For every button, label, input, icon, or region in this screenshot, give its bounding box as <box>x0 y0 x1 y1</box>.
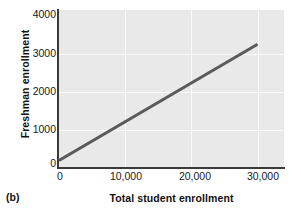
panel-label: (b) <box>6 191 19 203</box>
x-tick-label-10000: 10,000 <box>110 171 142 182</box>
y-tick-label-1000: 1000 <box>33 124 56 134</box>
plot-area <box>59 10 284 168</box>
y-tick-label-3000: 3000 <box>33 48 56 58</box>
x-tick-label-20000: 20,000 <box>179 171 211 182</box>
x-tick-label-30000: 30,000 <box>247 171 279 182</box>
x-axis-title: Total student enrollment <box>59 192 284 204</box>
data-series-line <box>59 10 284 168</box>
y-tick-label-2000: 2000 <box>33 86 56 96</box>
figure: 4000 3000 2000 1000 0 0 10,000 20,000 30… <box>0 0 301 216</box>
x-axis-line <box>57 167 285 169</box>
y-axis-title: Freshman enrollment <box>19 0 31 169</box>
y-tick-label-0: 0 <box>50 158 56 168</box>
y-tick-label-4000: 4000 <box>33 9 56 19</box>
x-tick-label-0: 0 <box>57 171 63 182</box>
y-axis-line <box>57 9 59 169</box>
